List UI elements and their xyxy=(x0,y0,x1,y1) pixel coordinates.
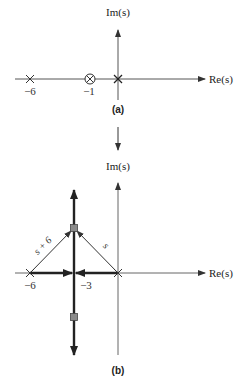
panel-a: Im(s) Re(s) −6 −1 (a) xyxy=(15,6,233,115)
tick-label-minus3-b: −3 xyxy=(80,279,92,291)
test-point-upper-icon xyxy=(71,225,78,232)
root-locus-figure: Im(s) Re(s) −6 −1 (a) Im(s) Re(s xyxy=(0,0,248,380)
zero-marker-icon xyxy=(85,74,95,84)
im-axis-label-b: Im(s) xyxy=(106,160,130,173)
panel-b-caption: (b) xyxy=(112,365,125,376)
tick-label-minus6-a: −6 xyxy=(24,85,36,97)
vector-s xyxy=(77,231,118,273)
re-axis-label-a: Re(s) xyxy=(209,73,233,86)
im-axis-label-a: Im(s) xyxy=(106,6,130,19)
tick-label-minus1-a: −1 xyxy=(83,85,95,97)
tick-label-minus6-b: −6 xyxy=(24,279,36,291)
vector-label-s-plus-6: s + 6 xyxy=(31,234,53,256)
test-point-lower-icon xyxy=(71,314,78,321)
re-axis-label-b: Re(s) xyxy=(209,267,233,280)
panel-a-caption: (a) xyxy=(112,104,124,115)
vector-label-s: s xyxy=(101,240,112,251)
panel-b: Im(s) Re(s) s + 6 s −6 −3 (b) xyxy=(15,160,233,376)
